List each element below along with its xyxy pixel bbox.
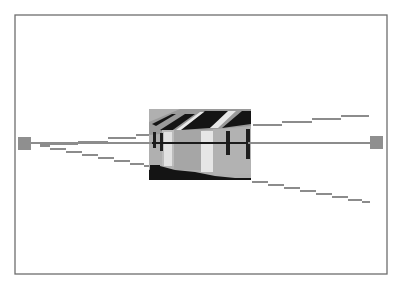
central-axis-through-photo	[152, 142, 248, 144]
perspective-diagram	[0, 0, 406, 298]
building-photo	[149, 109, 251, 180]
right-viewpoint-square	[370, 136, 383, 149]
left-viewpoint-square	[18, 137, 31, 150]
